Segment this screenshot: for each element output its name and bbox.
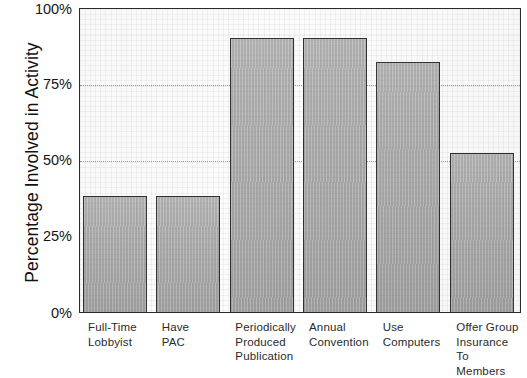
y-tick-label-0: 0% bbox=[20, 305, 72, 321]
bar[interactable] bbox=[156, 196, 220, 313]
bar[interactable] bbox=[83, 196, 147, 313]
x-axis-label-text: Annual Convention bbox=[309, 320, 369, 349]
y-tick-label-50: 50% bbox=[20, 152, 72, 168]
bar-cell bbox=[373, 9, 446, 312]
x-axis-label-cell: Periodically Produced Publication bbox=[226, 320, 300, 359]
bar[interactable] bbox=[303, 38, 367, 314]
bar-series bbox=[80, 9, 520, 312]
bar[interactable] bbox=[376, 62, 440, 313]
bar-cell bbox=[153, 9, 226, 312]
x-axis-label-cell: Use Computers bbox=[374, 320, 448, 359]
bar-cell bbox=[227, 9, 300, 312]
bar-cell bbox=[447, 9, 520, 312]
bar[interactable] bbox=[450, 153, 514, 313]
bar[interactable] bbox=[230, 38, 294, 314]
x-axis-label-cell: Offer Group Insurance To Members bbox=[447, 320, 521, 359]
x-axis-labels: Full-Time LobbyistHave PACPeriodically P… bbox=[79, 320, 521, 359]
plot-area bbox=[79, 8, 521, 313]
x-axis-label-text: Use Computers bbox=[383, 320, 441, 349]
x-axis-label-cell: Full-Time Lobbyist bbox=[79, 320, 153, 359]
x-axis-label-text: Have PAC bbox=[162, 320, 189, 349]
bar-cell bbox=[80, 9, 153, 312]
x-axis-label-text: Offer Group Insurance To Members bbox=[456, 320, 521, 378]
x-axis-label-cell: Annual Convention bbox=[300, 320, 374, 359]
y-tick-label-75: 75% bbox=[20, 76, 72, 92]
x-axis-label-text: Full-Time Lobbyist bbox=[88, 320, 137, 349]
y-axis-ticks: 100% 75% 50% 25% 0% bbox=[14, 0, 72, 359]
y-tick-label-100: 100% bbox=[20, 1, 72, 17]
y-tick-label-25: 25% bbox=[20, 228, 72, 244]
x-axis-label-text: Periodically Produced Publication bbox=[235, 320, 296, 364]
x-axis-label-cell: Have PAC bbox=[153, 320, 227, 359]
bar-cell bbox=[300, 9, 373, 312]
